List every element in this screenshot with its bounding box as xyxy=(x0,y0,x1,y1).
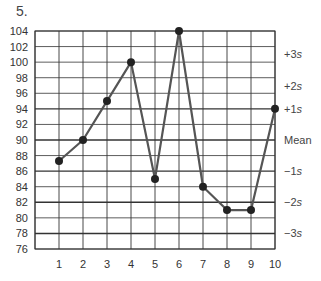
sd-label: Mean xyxy=(284,134,312,146)
y-tick-label: 88 xyxy=(16,150,28,162)
x-tick-label: 9 xyxy=(248,258,254,270)
y-axis-ticks: 104102100989694929088868482807876 xyxy=(10,25,28,255)
y-tick-label: 78 xyxy=(16,227,28,239)
x-tick-label: 5 xyxy=(152,258,158,270)
y-tick-label: 86 xyxy=(16,165,28,177)
y-tick-label: 82 xyxy=(16,196,28,208)
sd-label: +1s xyxy=(284,103,303,115)
y-tick-label: 104 xyxy=(10,25,28,37)
sd-label: +3s xyxy=(284,48,303,60)
y-tick-label: 84 xyxy=(16,181,28,193)
x-tick-label: 6 xyxy=(176,258,182,270)
sd-labels: +3s+2s+1sMean−1s−2s−3s xyxy=(284,48,312,239)
data-point-marker xyxy=(271,105,279,113)
series-line xyxy=(59,31,275,210)
y-tick-label: 94 xyxy=(16,103,28,115)
sd-label: −1s xyxy=(284,165,303,177)
data-point-marker xyxy=(55,157,63,165)
y-tick-label: 76 xyxy=(16,243,28,255)
data-point-marker xyxy=(223,206,231,214)
data-point-marker xyxy=(127,58,135,66)
y-tick-label: 102 xyxy=(10,41,28,53)
data-point-marker xyxy=(175,27,183,35)
y-tick-label: 98 xyxy=(16,72,28,84)
x-tick-label: 7 xyxy=(200,258,206,270)
x-tick-label: 2 xyxy=(80,258,86,270)
data-point-marker xyxy=(247,206,255,214)
data-point-marker xyxy=(79,136,87,144)
x-axis-ticks: 12345678910 xyxy=(56,258,281,270)
y-tick-label: 80 xyxy=(16,212,28,224)
chart-grid xyxy=(35,31,275,249)
x-tick-label: 8 xyxy=(224,258,230,270)
x-tick-label: 3 xyxy=(104,258,110,270)
sd-label: −2s xyxy=(284,196,303,208)
data-point-marker xyxy=(199,183,207,191)
y-tick-label: 96 xyxy=(16,87,28,99)
y-tick-label: 100 xyxy=(10,56,28,68)
data-point-marker xyxy=(151,175,159,183)
sd-label: −3s xyxy=(284,227,303,239)
x-tick-label: 4 xyxy=(128,258,134,270)
levey-jennings-chart: 104102100989694929088868482807876 123456… xyxy=(0,0,321,281)
y-tick-label: 92 xyxy=(16,118,28,130)
data-point-marker xyxy=(103,97,111,105)
sd-label: +2s xyxy=(284,80,303,92)
data-series xyxy=(55,27,279,214)
x-tick-label: 1 xyxy=(56,258,62,270)
x-tick-label: 10 xyxy=(269,258,281,270)
y-tick-label: 90 xyxy=(16,134,28,146)
